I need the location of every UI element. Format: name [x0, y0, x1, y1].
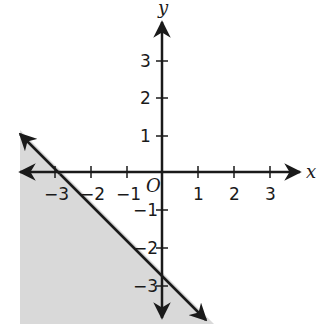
- y-tick-label: −1: [133, 200, 158, 220]
- coordinate-plane: −3 −2 −1 1 2 3 3 2 1 −1 −2 −3 O x y: [0, 0, 321, 324]
- y-tick-label: −2: [133, 238, 158, 258]
- y-axis-label: y: [157, 0, 169, 18]
- y-tick-label: 2: [140, 88, 151, 108]
- x-tick-label: −2: [80, 184, 105, 204]
- shaded-region: [20, 130, 214, 324]
- x-tick-label: 3: [265, 184, 276, 204]
- x-tick-label: 1: [193, 184, 204, 204]
- x-axis-label: x: [306, 161, 316, 182]
- x-tick-label: 2: [229, 184, 240, 204]
- y-tick-label: 1: [140, 126, 151, 146]
- y-tick-label: −3: [133, 276, 158, 296]
- x-tick-label: −3: [44, 184, 69, 204]
- y-tick-label: 3: [140, 51, 151, 71]
- origin-label: O: [146, 175, 161, 196]
